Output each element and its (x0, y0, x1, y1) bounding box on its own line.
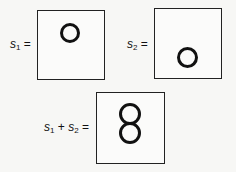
s1-box (37, 10, 105, 80)
sum-box (96, 92, 165, 164)
s2-box (154, 8, 222, 79)
sum-label: s1 + s2 = (44, 120, 89, 135)
s1-equals: = (20, 37, 30, 51)
sum-equals: = (79, 120, 89, 134)
ring-icon (119, 122, 141, 144)
ring-icon (177, 47, 198, 68)
ring-icon (60, 23, 80, 43)
s1-label: s1 = (10, 37, 31, 52)
s2-label: s2 = (127, 37, 148, 52)
s2-equals: = (137, 37, 147, 51)
sum-plus: + (54, 120, 68, 134)
